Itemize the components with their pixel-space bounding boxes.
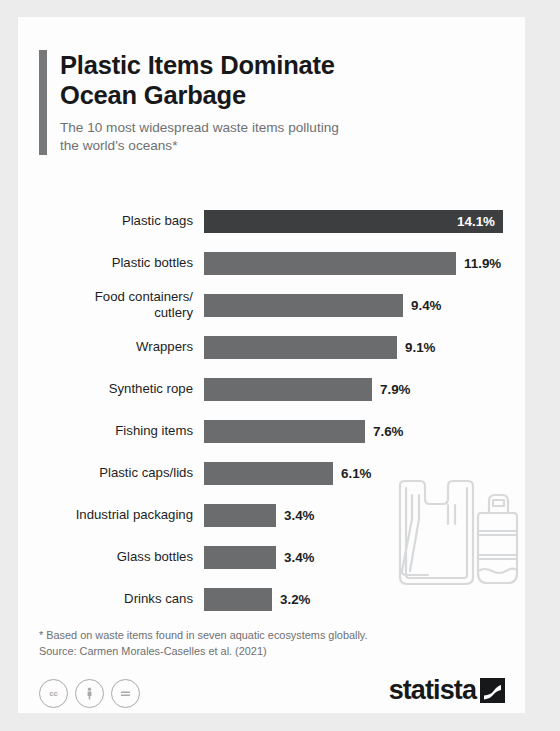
bar-zone: 11.9%	[204, 252, 509, 275]
bar-value-label: 3.2%	[272, 592, 311, 607]
chart-row: Synthetic rope7.9%	[39, 368, 509, 410]
header-text: Plastic Items Dominate Ocean Garbage The…	[60, 50, 339, 155]
bar-zone: 6.1%	[204, 462, 509, 485]
category-label: Fishing items	[39, 423, 204, 439]
chart-row: Fishing items7.6%	[39, 410, 509, 452]
chart-row: Food containers/ cutlery9.4%	[39, 284, 509, 326]
bar-value-label: 7.6%	[365, 424, 404, 439]
bar-value-label: 7.9%	[372, 382, 411, 397]
page-subtitle: The 10 most widespread waste items pollu…	[60, 119, 339, 155]
page-title: Plastic Items Dominate Ocean Garbage	[60, 51, 339, 111]
bar-zone: 7.6%	[204, 420, 509, 443]
bar[interactable]	[204, 504, 276, 527]
creative-commons-icons: cc	[39, 679, 140, 708]
category-label: Synthetic rope	[39, 381, 204, 397]
bar-zone: 3.2%	[204, 588, 509, 611]
bar[interactable]	[204, 378, 372, 401]
category-label: Food containers/ cutlery	[39, 289, 204, 320]
bar-zone: 9.1%	[204, 336, 509, 359]
source-text: Source: Carmen Morales-Caselles et al. (…	[39, 644, 489, 660]
bar[interactable]	[204, 462, 333, 485]
bar[interactable]	[204, 420, 365, 443]
infographic-card: Plastic Items Dominate Ocean Garbage The…	[18, 17, 525, 713]
bar-value-label: 14.1%	[457, 214, 503, 229]
footnote-text: * Based on waste items found in seven aq…	[39, 628, 489, 644]
chart-row: Plastic caps/lids6.1%	[39, 452, 509, 494]
accent-bar	[39, 50, 47, 155]
bar[interactable]	[204, 588, 272, 611]
bar-zone: 14.1%	[204, 210, 509, 233]
chart-row: Drinks cans3.2%	[39, 578, 509, 620]
footnote-block: * Based on waste items found in seven aq…	[39, 628, 489, 660]
bar[interactable]	[204, 294, 403, 317]
header: Plastic Items Dominate Ocean Garbage The…	[39, 50, 469, 155]
chart-row: Wrappers9.1%	[39, 326, 509, 368]
chart-row: Plastic bags14.1%	[39, 200, 509, 242]
bar-chart: Plastic bags14.1%Plastic bottles11.9%Foo…	[39, 200, 509, 620]
statista-wordmark: statista	[389, 677, 476, 704]
bar-zone: 3.4%	[204, 504, 509, 527]
bar[interactable]	[204, 336, 397, 359]
bar[interactable]: 14.1%	[204, 210, 503, 233]
category-label: Wrappers	[39, 339, 204, 355]
statista-logo: statista	[389, 677, 505, 704]
bar-zone: 9.4%	[204, 294, 509, 317]
bar-value-label: 6.1%	[333, 466, 372, 481]
cc-icon: cc	[39, 679, 68, 708]
cc-by-person-icon	[75, 679, 104, 708]
category-label: Industrial packaging	[39, 507, 204, 523]
bar[interactable]	[204, 252, 456, 275]
bar-value-label: 3.4%	[276, 508, 315, 523]
statista-swoosh-icon	[480, 678, 505, 703]
chart-row: Plastic bottles11.9%	[39, 242, 509, 284]
category-label: Plastic bags	[39, 213, 204, 229]
bar-value-label: 9.1%	[397, 340, 436, 355]
chart-row: Glass bottles3.4%	[39, 536, 509, 578]
category-label: Plastic bottles	[39, 255, 204, 271]
bar-zone: 7.9%	[204, 378, 509, 401]
category-label: Plastic caps/lids	[39, 465, 204, 481]
cc-nd-equals-icon	[111, 679, 140, 708]
bar-value-label: 9.4%	[403, 298, 442, 313]
chart-row: Industrial packaging3.4%	[39, 494, 509, 536]
category-label: Glass bottles	[39, 549, 204, 565]
bar[interactable]	[204, 546, 276, 569]
bar-value-label: 11.9%	[456, 256, 501, 271]
bar-value-label: 3.4%	[276, 550, 315, 565]
category-label: Drinks cans	[39, 591, 204, 607]
bar-zone: 3.4%	[204, 546, 509, 569]
svg-text:cc: cc	[49, 689, 58, 698]
